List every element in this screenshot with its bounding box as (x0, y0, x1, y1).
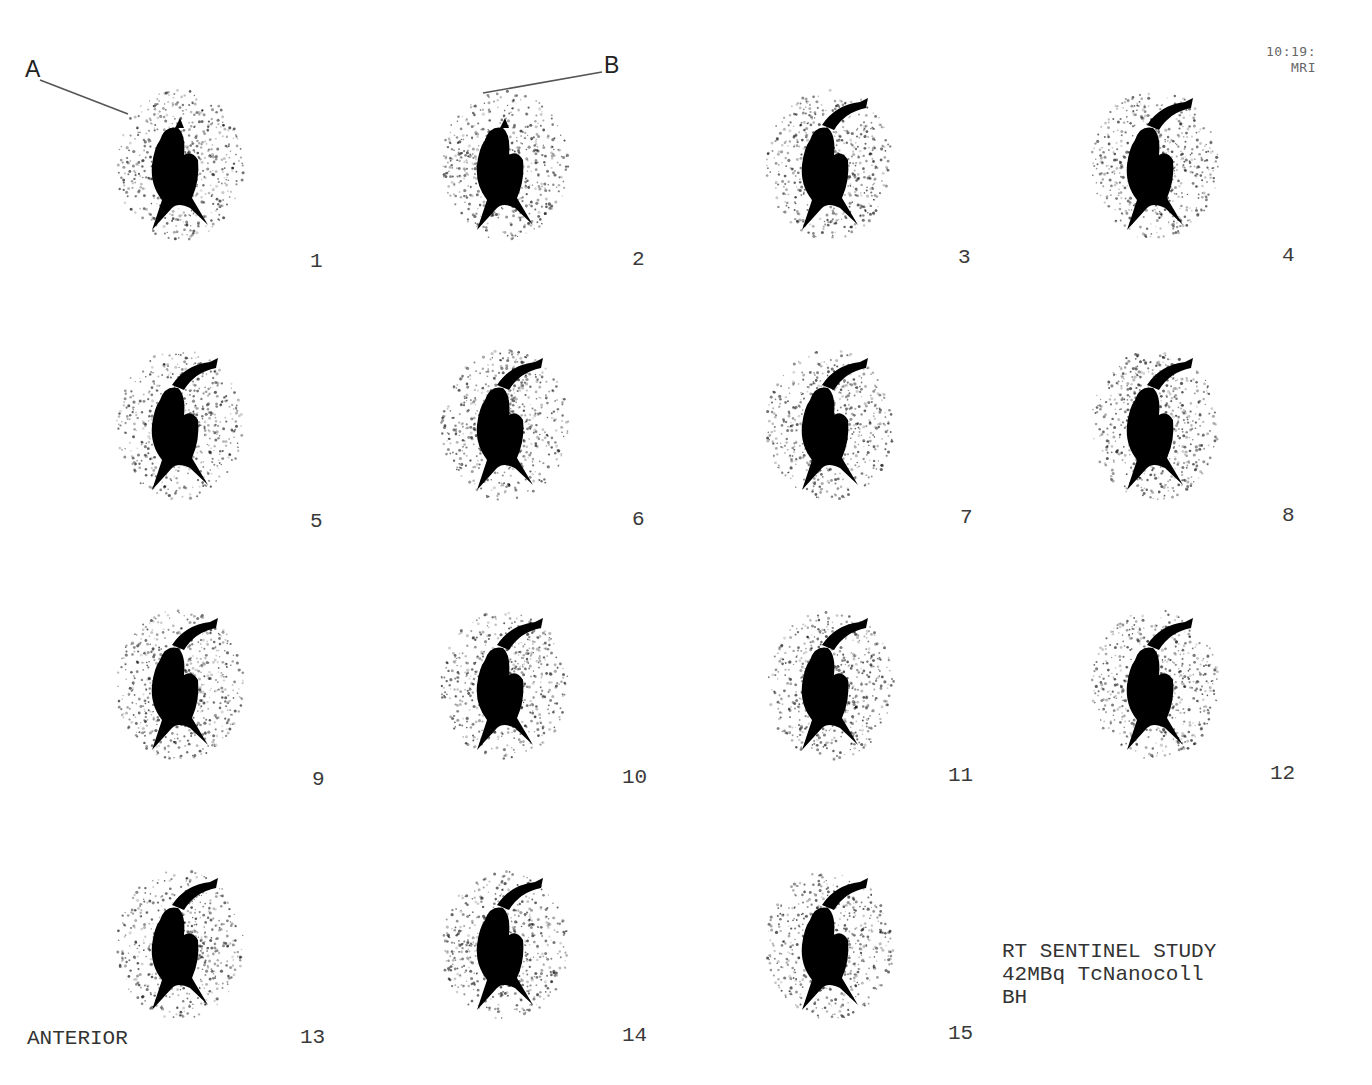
scan-frame (365, 60, 687, 318)
uptake-blob-icon (1055, 340, 1255, 530)
frame-number: 9 (312, 768, 325, 791)
uptake-blob-icon (80, 340, 280, 530)
uptake-blob-icon (730, 80, 930, 270)
frame-number: 13 (300, 1026, 325, 1049)
scan-image (730, 80, 930, 270)
scan-frame (365, 320, 687, 578)
frame-number: 4 (1282, 244, 1295, 267)
frame-number: 3 (958, 246, 971, 269)
view-label: ANTERIOR (27, 1027, 128, 1050)
frame-number: 11 (948, 764, 973, 787)
frame-number: 2 (632, 248, 645, 271)
scan-frame (1015, 60, 1337, 318)
scan-image (405, 600, 605, 790)
frame-number: 1 (310, 250, 323, 273)
scan-frame (40, 580, 362, 838)
uptake-blob-icon (405, 600, 605, 790)
study-title: RT SENTINEL STUDY (1002, 940, 1216, 963)
study-info: RT SENTINEL STUDY42MBq TcNanocollBH (1002, 940, 1216, 1009)
scan-frame (365, 840, 687, 1085)
scan-frame (40, 320, 362, 578)
uptake-blob-icon (80, 860, 280, 1050)
uptake-blob-icon (80, 80, 280, 270)
acquisition-time: 10:19: (1230, 44, 1316, 60)
frame-number: 6 (632, 508, 645, 531)
uptake-blob-icon (730, 340, 930, 530)
scan-frame (690, 60, 1012, 318)
scan-image (80, 860, 280, 1050)
scan-frame (690, 320, 1012, 578)
frame-number: 12 (1270, 762, 1295, 785)
scan-image (730, 340, 930, 530)
study-dose: 42MBq TcNanocoll (1002, 963, 1216, 986)
scan-image (1055, 340, 1255, 530)
scan-image (405, 80, 605, 270)
frame-number: 5 (310, 510, 323, 533)
study-operator: BH (1002, 986, 1216, 1009)
uptake-blob-icon (1055, 80, 1255, 270)
frame-number: 15 (948, 1022, 973, 1045)
annotation-a-label: A (25, 56, 40, 83)
uptake-blob-icon (80, 600, 280, 790)
frame-number: 8 (1282, 504, 1295, 527)
uptake-blob-icon (405, 80, 605, 270)
scan-image (730, 600, 930, 790)
scan-image (730, 860, 930, 1050)
scan-frame (1015, 320, 1337, 578)
uptake-blob-icon (405, 340, 605, 530)
uptake-blob-icon (1055, 600, 1255, 790)
scan-image (80, 340, 280, 530)
scan-frame (1015, 580, 1337, 838)
frame-number: 10 (622, 766, 647, 789)
scan-frame (365, 580, 687, 838)
scan-frame (690, 840, 1012, 1085)
scan-image (405, 860, 605, 1050)
uptake-blob-icon (730, 600, 930, 790)
scan-image (1055, 600, 1255, 790)
frame-number: 14 (622, 1024, 647, 1047)
uptake-blob-icon (730, 860, 930, 1050)
frame-number: 7 (960, 506, 973, 529)
scan-frame (40, 60, 362, 318)
scan-image (80, 600, 280, 790)
scan-image (80, 80, 280, 270)
scan-frame (690, 580, 1012, 838)
scan-image (405, 340, 605, 530)
uptake-blob-icon (405, 860, 605, 1050)
scan-image (1055, 80, 1255, 270)
